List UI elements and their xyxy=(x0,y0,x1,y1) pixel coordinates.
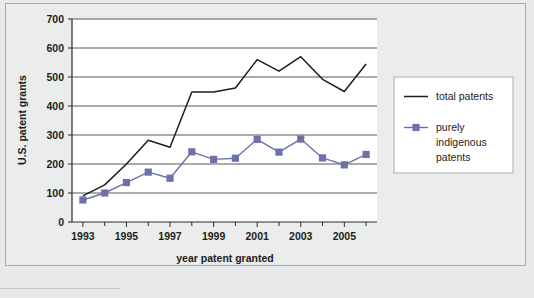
legend-label-1: purely xyxy=(436,121,465,133)
x-axis-title: year patent granted xyxy=(176,252,273,264)
y-tick-label-200: 200 xyxy=(46,158,64,170)
y-tick-label-300: 300 xyxy=(46,129,64,141)
y-tick-label-500: 500 xyxy=(46,71,64,83)
data-point-marker xyxy=(232,155,239,162)
y-tick-label-100: 100 xyxy=(46,187,64,199)
data-point-marker xyxy=(275,149,282,156)
x-tick-label-2005: 2005 xyxy=(333,230,357,242)
y-tick-label-700: 700 xyxy=(46,13,64,25)
chart-legend: total patentspurelyindigenouspatents xyxy=(394,77,513,173)
data-point-marker xyxy=(254,136,261,143)
legend-marker-1 xyxy=(412,124,419,131)
legend-label-0: total patents xyxy=(436,90,493,102)
y-tick-label-0: 0 xyxy=(58,216,64,228)
data-point-marker xyxy=(319,154,326,161)
data-point-marker xyxy=(363,151,370,158)
x-tick-label-1999: 1999 xyxy=(202,230,226,242)
legend-label-1: indigenous xyxy=(436,136,487,148)
data-point-marker xyxy=(188,148,195,155)
data-point-marker xyxy=(145,169,152,176)
y-tick-label-400: 400 xyxy=(46,100,64,112)
data-point-marker xyxy=(166,175,173,182)
plot-area-background xyxy=(72,19,377,222)
legend-label-1: patents xyxy=(436,151,470,163)
x-tick-label-2003: 2003 xyxy=(289,230,313,242)
x-tick-label-2001: 2001 xyxy=(245,230,269,242)
data-point-marker xyxy=(210,156,217,163)
y-axis-title: U.S. patent grants xyxy=(16,75,28,165)
x-tick-label-1995: 1995 xyxy=(115,230,139,242)
x-tick-label-1997: 1997 xyxy=(158,230,182,242)
data-point-marker xyxy=(101,189,108,196)
y-axis-ticks-group: 0100200300400500600700 xyxy=(46,13,72,228)
x-axis-ticks-group: 1993199519971999200120032005 xyxy=(71,222,366,242)
data-point-marker xyxy=(297,135,304,142)
data-point-marker xyxy=(123,179,130,186)
data-point-marker xyxy=(341,161,348,168)
figure-container: 0100200300400500600700 19931995199719992… xyxy=(0,0,534,298)
y-tick-label-600: 600 xyxy=(46,42,64,54)
data-point-marker xyxy=(79,196,86,203)
line-chart: 0100200300400500600700 19931995199719992… xyxy=(0,0,534,298)
x-tick-label-1993: 1993 xyxy=(71,230,95,242)
